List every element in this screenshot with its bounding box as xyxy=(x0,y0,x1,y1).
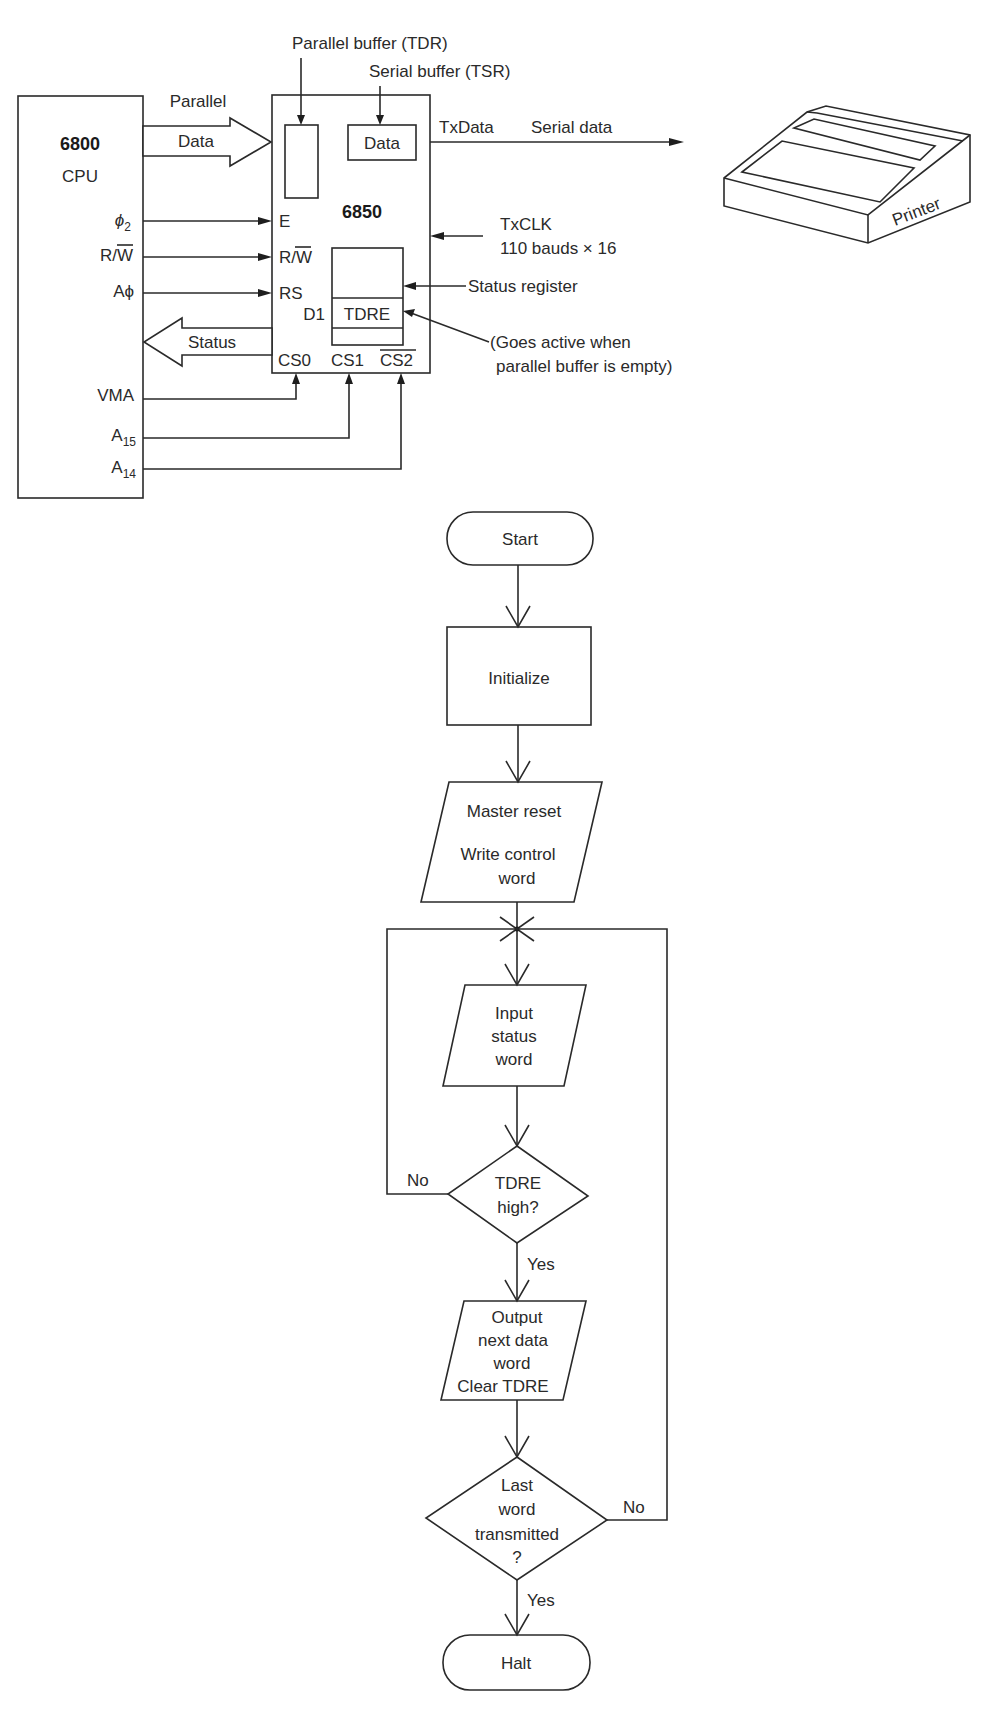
last-word-line-3: transmitted xyxy=(475,1525,559,1544)
signal-phi2-label: ϕ2 xyxy=(115,211,131,234)
arrowhead-icon xyxy=(397,373,405,384)
signal-a15-label: A15 xyxy=(111,426,136,449)
master-reset-line-1: Master reset xyxy=(467,802,562,821)
signal-a14-label: A14 xyxy=(111,458,136,481)
tdre-yes-label: Yes xyxy=(527,1255,555,1274)
output-line-4: Clear TDRE xyxy=(457,1377,548,1396)
txclk-label: TxCLK xyxy=(500,215,553,234)
signal-vma-label: VMA xyxy=(97,386,135,405)
input-status-line-2: status xyxy=(491,1027,536,1046)
parallel-buffer-tdr xyxy=(285,125,318,198)
tdre-high-decision xyxy=(448,1146,588,1243)
status-arrow-label: Status xyxy=(188,333,236,352)
last-word-line-4: ? xyxy=(512,1548,521,1567)
acia-name: 6850 xyxy=(342,202,382,222)
signal-rw-label: R/W xyxy=(100,246,133,265)
output-line-3: word xyxy=(493,1354,531,1373)
txdata-label: TxData xyxy=(439,118,494,137)
pin-e-label: E xyxy=(279,212,290,231)
block-diagram: 6800 CPU ϕ2 R/W Aϕ VMA A15 A14 6850 Data… xyxy=(18,34,970,498)
arrowhead-icon xyxy=(430,232,444,240)
a15-line xyxy=(143,382,349,438)
arrowhead-icon xyxy=(258,253,272,261)
pin-cs2-label: CS2 xyxy=(380,351,413,370)
tdre-bit-label: TDRE xyxy=(344,305,390,324)
parallel-buffer-label: Parallel buffer (TDR) xyxy=(292,34,448,53)
txclk-rate: 110 bauds × 16 xyxy=(500,239,616,258)
pin-rs-label: RS xyxy=(279,284,303,303)
tdre-decision-line-1: TDRE xyxy=(495,1174,541,1193)
serial-buffer-label: Serial buffer (TSR) xyxy=(369,62,510,81)
pin-cs1-label: CS1 xyxy=(331,351,364,370)
last-word-line-1: Last xyxy=(501,1476,533,1495)
arrowhead-icon xyxy=(258,289,272,297)
status-register-box xyxy=(332,248,403,345)
output-line-2: next data xyxy=(478,1331,548,1350)
signal-a0-label: Aϕ xyxy=(113,282,134,301)
tdre-decision-line-2: high? xyxy=(497,1198,539,1217)
pin-rw-label: R/W xyxy=(279,248,312,267)
vma-line xyxy=(143,382,296,399)
master-reset-line-2: Write control xyxy=(460,845,555,864)
last-word-yes-label: Yes xyxy=(527,1591,555,1610)
tdre-no-label: No xyxy=(407,1171,429,1190)
printer-icon: Printer xyxy=(724,106,970,243)
arrowhead-icon xyxy=(345,373,353,384)
d1-label: D1 xyxy=(303,305,325,324)
tdre-note-pointer xyxy=(411,313,489,342)
halt-label: Halt xyxy=(501,1654,532,1673)
parallel-data-label-2: Data xyxy=(178,132,214,151)
cpu-label: CPU xyxy=(62,167,98,186)
arrowhead-icon xyxy=(258,217,272,225)
master-reset-line-3: word xyxy=(498,869,536,888)
parallel-data-label-1: Parallel xyxy=(170,92,227,111)
input-status-line-3: word xyxy=(495,1050,533,1069)
arrowhead-icon xyxy=(669,138,684,146)
serial-buffer-content: Data xyxy=(364,134,400,153)
diagram-canvas: 6800 CPU ϕ2 R/W Aϕ VMA A15 A14 6850 Data… xyxy=(0,0,1000,1713)
arrowhead-icon xyxy=(376,115,384,125)
start-label: Start xyxy=(502,530,538,549)
arrowhead-icon xyxy=(403,282,416,290)
status-register-label: Status register xyxy=(468,277,578,296)
last-word-no-label: No xyxy=(623,1498,645,1517)
arrowhead-icon xyxy=(292,373,300,384)
input-status-line-1: Input xyxy=(495,1004,533,1023)
output-line-1: Output xyxy=(491,1308,542,1327)
flowchart: Start Initialize Master reset Write cont… xyxy=(387,512,667,1690)
last-word-line-2: word xyxy=(498,1500,536,1519)
serial-data-label: Serial data xyxy=(531,118,613,137)
cpu-name: 6800 xyxy=(60,134,100,154)
tdre-note-line-2: parallel buffer is empty) xyxy=(496,357,672,376)
tdre-note-line-1: (Goes active when xyxy=(490,333,631,352)
pin-cs0-label: CS0 xyxy=(278,351,311,370)
arrowhead-icon xyxy=(403,309,415,317)
acia-6850-box xyxy=(272,95,430,373)
arrowhead-icon xyxy=(297,115,305,125)
initialize-label: Initialize xyxy=(488,669,549,688)
a14-line xyxy=(143,382,401,469)
